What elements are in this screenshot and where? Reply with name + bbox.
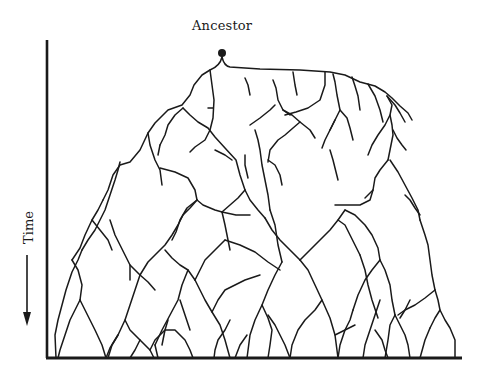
branch-line [255, 130, 270, 210]
branch-line [393, 130, 406, 150]
phylogeny-diagram: Ancestor Time [0, 0, 486, 379]
branch-line [197, 200, 250, 215]
branch-line [80, 300, 106, 358]
branch-line [155, 345, 158, 358]
branch-line [385, 315, 395, 358]
branch-line [388, 115, 393, 160]
branch-line [172, 200, 197, 240]
branch-line [375, 330, 388, 358]
ancestor-node-icon [218, 49, 226, 57]
branch-line [363, 300, 380, 358]
branch-line [420, 328, 430, 358]
branch-line [270, 210, 282, 262]
branch-line [195, 240, 225, 280]
branch-line [190, 70, 214, 152]
branch-line [340, 110, 353, 140]
branch-line [440, 310, 455, 358]
branch-line [245, 155, 248, 178]
branch-line [262, 305, 272, 358]
branch-line [225, 240, 280, 270]
branch-line [125, 320, 154, 358]
branch-line [380, 260, 395, 315]
branch-line [300, 210, 345, 260]
branch-line [92, 220, 112, 250]
branch-line [72, 200, 103, 260]
branch-line [222, 190, 245, 212]
lineage-branches [55, 57, 455, 358]
branch-line [222, 212, 230, 250]
branch-line [353, 260, 380, 310]
branch-line [110, 220, 130, 280]
branch-line [82, 162, 120, 250]
branch-line [130, 340, 140, 358]
branch-line [420, 220, 435, 290]
branch-line [338, 310, 353, 358]
time-arrow-icon [23, 255, 31, 326]
branch-line [103, 57, 222, 200]
branch-line [368, 96, 392, 155]
branch-line [338, 220, 360, 255]
branch-line [300, 260, 338, 358]
branch-line [158, 145, 160, 155]
tree-canvas [0, 0, 486, 379]
branch-line [250, 105, 275, 125]
branch-line [165, 250, 195, 280]
branch-line [215, 150, 232, 160]
branch-line [245, 190, 265, 218]
branch-line [214, 320, 230, 358]
branch-line [265, 218, 300, 260]
branch-line [235, 335, 247, 358]
branch-line [273, 80, 290, 115]
branch-line [148, 133, 162, 185]
branch-line [222, 57, 412, 120]
branch-line [395, 315, 410, 358]
branch-line [268, 122, 300, 162]
branch-line [330, 150, 338, 180]
branch-line [330, 120, 335, 130]
branch-line [430, 290, 440, 328]
branch-line [390, 160, 420, 220]
branch-line [140, 200, 197, 275]
branch-line [285, 72, 325, 115]
branch-line [245, 78, 250, 95]
branch-line [290, 300, 322, 358]
branch-line [293, 72, 297, 95]
branch-line [180, 300, 190, 330]
branch-line [212, 275, 260, 312]
branch-line [335, 160, 388, 205]
branch-line [195, 280, 230, 358]
branch-line [108, 335, 118, 358]
branch-line [160, 168, 197, 200]
branch-line [268, 160, 282, 185]
branch-line [72, 260, 82, 300]
branch-line [130, 265, 155, 290]
